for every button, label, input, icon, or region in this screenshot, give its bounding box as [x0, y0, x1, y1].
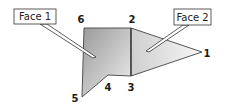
face-2-label: Face 2 [176, 12, 208, 23]
vertex-5-label: 5 [72, 93, 79, 104]
diagram-canvas: Face 1 Face 2 6 2 1 3 4 5 [0, 0, 226, 109]
vertex-4-label: 4 [105, 82, 112, 93]
vertex-6-label: 6 [78, 14, 85, 25]
face-2-shape [131, 28, 202, 76]
vertex-3-label: 3 [128, 82, 135, 93]
vertex-1-label: 1 [204, 48, 211, 59]
face-1-label: Face 1 [19, 11, 51, 22]
vertex-2-label: 2 [129, 14, 136, 25]
polygon-diagram: Face 1 Face 2 6 2 1 3 4 5 [0, 0, 226, 109]
